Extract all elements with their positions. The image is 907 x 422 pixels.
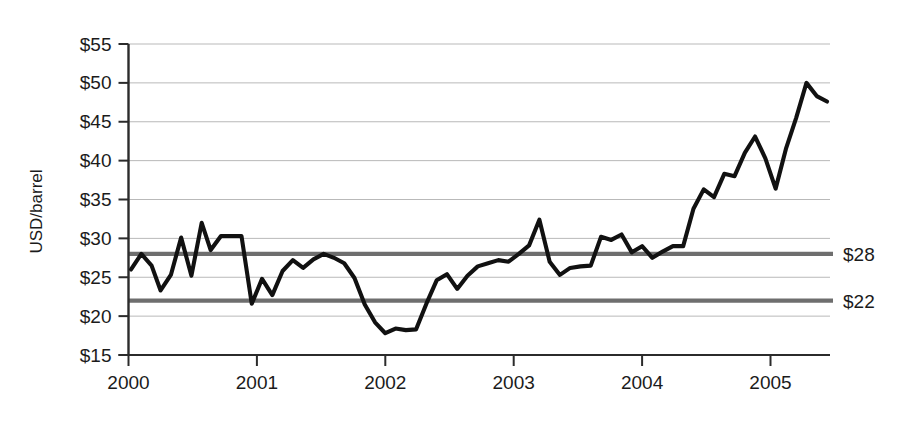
data-line-series (131, 83, 827, 333)
oil-price-chart: $55$50$45$40$35$30$25$20$15 200020012002… (0, 0, 907, 422)
grid-lines (129, 44, 831, 316)
reference-line-labels: $28$22 (843, 244, 875, 312)
y-tick-label: $50 (80, 72, 112, 93)
y-tick-label: $45 (80, 111, 112, 132)
x-tick-label: 2001 (236, 372, 278, 393)
reference-label-28: $28 (843, 244, 875, 265)
y-tick-label: $35 (80, 189, 112, 210)
y-tick-label: $15 (80, 345, 112, 366)
y-axis-title-label: USD/barrel (27, 169, 46, 253)
y-tick-label: $25 (80, 267, 112, 288)
y-tick-label: $30 (80, 228, 112, 249)
x-tick-label: 2005 (749, 372, 791, 393)
y-tick-label: $55 (80, 34, 112, 55)
x-tick-label: 2000 (107, 372, 149, 393)
y-tick-label: $20 (80, 306, 112, 327)
x-tick-label: 2003 (493, 372, 535, 393)
y-axis-ticks: $55$50$45$40$35$30$25$20$15 (80, 34, 129, 366)
x-tick-label: 2002 (364, 372, 406, 393)
x-axis-ticks: 200020012002200320042005 (107, 355, 791, 393)
chart-canvas: $55$50$45$40$35$30$25$20$15 200020012002… (0, 0, 907, 422)
y-tick-label: $40 (80, 150, 112, 171)
reference-label-22: $22 (843, 291, 875, 312)
data-line (131, 83, 827, 333)
x-tick-label: 2004 (621, 372, 664, 393)
y-axis-title: USD/barrel (27, 169, 46, 253)
